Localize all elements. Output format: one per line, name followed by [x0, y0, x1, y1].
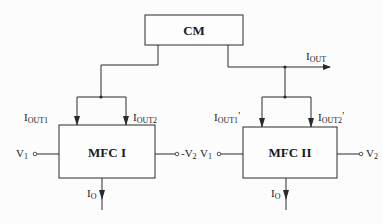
mfc1-v1-terminal	[33, 152, 37, 156]
mfc2-v2-label: V2	[366, 147, 378, 161]
mfc1-io-label: IO	[87, 187, 97, 201]
mfc2-iout2-label: IOUT2'	[318, 109, 344, 125]
mfc2-block: MFC II	[243, 127, 337, 178]
iout-label: IOUT	[306, 50, 326, 64]
mfc1-io-arrow	[99, 190, 105, 200]
block-diagram: CM IOUT IOUT1 IOUT2 MFC I V1 -V2 IO IOUT…	[0, 0, 383, 224]
mfc1-iout1-label: IOUT1	[24, 111, 48, 125]
mfc2-v1-terminal	[217, 152, 221, 156]
mfc1-v2-label: -V2	[181, 147, 197, 161]
mfc2-label: MFC II	[269, 145, 312, 160]
mfc2-v1-label: V1	[200, 147, 212, 161]
mfc1-label: MFC I	[88, 145, 126, 160]
cm-to-mfc1-wire	[101, 45, 158, 97]
mfc2-iout1-label: IOUT1'	[214, 109, 240, 125]
mfc2-io-label: IO	[271, 187, 281, 201]
mfc1-block: MFC I	[59, 125, 155, 178]
mfc1-iout2-label: IOUT2	[133, 111, 157, 125]
mfc2-io-arrow	[283, 190, 289, 200]
mfc2-v2-terminal	[359, 152, 363, 156]
cm-label: CM	[183, 23, 205, 38]
mfc1-v2-terminal	[175, 152, 179, 156]
mfc1-v1-label: V1	[16, 147, 28, 161]
cm-block: CM	[145, 15, 243, 45]
